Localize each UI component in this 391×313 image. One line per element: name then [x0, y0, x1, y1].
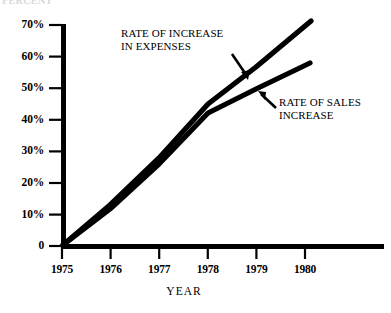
- x-tick-label-1980: 1980: [282, 263, 328, 275]
- x-tick-label-1978: 1978: [185, 263, 231, 275]
- x-axis-title: YEAR: [114, 285, 254, 297]
- x-tick-label-1975: 1975: [39, 263, 85, 275]
- annotation-expenses-line1: RATE OF INCREASE: [121, 27, 223, 40]
- y-axis-ticks: [49, 25, 62, 246]
- y-tick-label-10: 10%: [2, 208, 44, 220]
- series-line-sales: [63, 63, 310, 245]
- y-tick-label-40: 40%: [2, 113, 44, 125]
- y-tick-label-60: 60%: [2, 50, 44, 62]
- annotation-sales-line1: RATE OF SALES: [279, 96, 361, 109]
- x-tick-label-1976: 1976: [88, 263, 134, 275]
- y-tick-label-0: 0: [2, 239, 44, 251]
- annotation-expenses: RATE OF INCREASE IN EXPENSES: [121, 27, 223, 52]
- annotation-sales: RATE OF SALES INCREASE: [279, 96, 361, 121]
- y-tick-label-70: 70%: [2, 18, 44, 30]
- x-tick-label-1977: 1977: [136, 263, 182, 275]
- annotation-expenses-line2: IN EXPENSES: [121, 40, 223, 53]
- y-tick-label-50: 50%: [2, 81, 44, 93]
- line-chart: PERCENT: [0, 0, 391, 313]
- annotation-sales-line2: INCREASE: [279, 109, 361, 122]
- x-tick-label-1979: 1979: [233, 263, 279, 275]
- annotation-arrow-sales: [258, 91, 276, 108]
- y-tick-label-20: 20%: [2, 176, 44, 188]
- y-tick-label-30: 30%: [2, 144, 44, 156]
